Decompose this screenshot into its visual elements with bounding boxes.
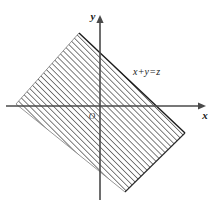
equation-label: x+y=z [132,66,160,77]
figure-canvas: x y O x+y=z [0,0,217,210]
x-axis-label: x [201,109,208,121]
origin-label: O [89,111,96,121]
math-figure: x y O x+y=z [0,0,217,210]
y-axis-label: y [89,10,96,22]
